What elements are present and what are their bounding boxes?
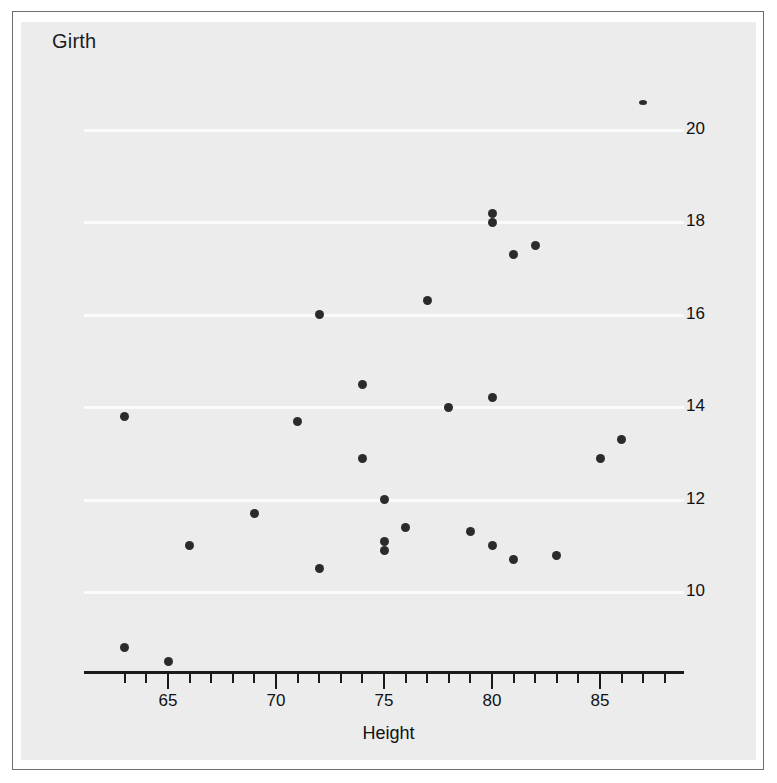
x-tick-87: [642, 674, 644, 683]
data-point: [380, 546, 389, 555]
x-tick-64: [145, 674, 147, 683]
x-tick-73: [340, 674, 342, 683]
x-tick-69: [253, 674, 255, 683]
data-point: [488, 218, 497, 227]
y-tick-label-12: 12: [686, 489, 705, 509]
gridline-y-18: [84, 221, 684, 224]
y-tick-label-10: 10: [686, 581, 705, 601]
data-point: [444, 403, 453, 412]
gridline-y-14: [84, 406, 684, 409]
plot-panel: [21, 22, 756, 760]
data-point: [164, 657, 173, 666]
y-tick-label-20: 20: [686, 119, 705, 139]
data-point: [488, 393, 497, 402]
plot-title: Girth: [52, 30, 96, 53]
x-tick-label-70: 70: [267, 691, 286, 711]
data-point: [531, 241, 540, 250]
x-tick-65: [167, 674, 169, 689]
data-point: [401, 523, 410, 532]
x-tick-81: [513, 674, 515, 683]
x-tick-84: [577, 674, 579, 683]
x-tick-68: [232, 674, 234, 683]
y-tick-label-18: 18: [686, 211, 705, 231]
x-tick-66: [189, 674, 191, 683]
x-axis-title: Height: [0, 723, 777, 744]
data-point: [358, 454, 367, 463]
x-tick-label-65: 65: [159, 691, 178, 711]
x-tick-70: [275, 674, 277, 689]
x-tick-67: [210, 674, 212, 683]
x-tick-85: [599, 674, 601, 689]
data-point: [488, 541, 497, 550]
gridline-y-16: [84, 314, 684, 317]
x-tick-86: [621, 674, 623, 683]
x-tick-label-80: 80: [483, 691, 502, 711]
gridline-y-10: [84, 591, 684, 594]
x-tick-77: [426, 674, 428, 683]
data-point: [596, 454, 605, 463]
x-tick-78: [448, 674, 450, 683]
x-tick-label-75: 75: [375, 691, 394, 711]
gridline-y-20: [84, 129, 684, 132]
data-point: [315, 310, 324, 319]
x-tick-71: [297, 674, 299, 683]
data-point: [488, 209, 497, 218]
data-point: [293, 417, 302, 426]
x-tick-63: [124, 674, 126, 683]
x-tick-83: [556, 674, 558, 683]
x-tick-80: [491, 674, 493, 689]
data-point: [380, 495, 389, 504]
y-tick-label-14: 14: [686, 396, 705, 416]
x-tick-76: [405, 674, 407, 683]
data-point: [552, 551, 561, 560]
y-tick-label-16: 16: [686, 304, 705, 324]
x-tick-75: [383, 674, 385, 689]
data-point: [358, 380, 367, 389]
data-point: [639, 100, 647, 105]
data-point: [250, 509, 259, 518]
x-tick-label-85: 85: [591, 691, 610, 711]
x-tick-82: [534, 674, 536, 683]
x-tick-74: [361, 674, 363, 683]
scatter-plot-figure: 101214161820 6570758085 Girth Height: [0, 0, 777, 783]
x-tick-72: [318, 674, 320, 683]
data-point: [380, 537, 389, 546]
x-tick-79: [469, 674, 471, 683]
x-tick-88: [664, 674, 666, 683]
